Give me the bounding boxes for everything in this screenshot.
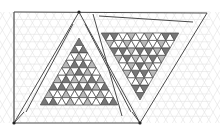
vertex-dot: [138, 121, 141, 124]
vertex-dot: [77, 10, 80, 13]
outline-edge: [99, 16, 193, 22]
diagram-canvas: [0, 0, 220, 133]
grid-line: [181, 12, 220, 123]
tessellation-figure: [0, 0, 220, 133]
grid-line: [164, 12, 220, 123]
right-inverted-triangle-pattern: [101, 33, 178, 100]
grid-line: [190, 12, 220, 123]
grid-line: [0, 12, 56, 123]
grid-line: [0, 12, 39, 123]
vertex-dot: [12, 121, 15, 124]
outline-frame: [12, 10, 207, 124]
grid-line: [164, 12, 220, 123]
grid-line: [0, 12, 56, 123]
grid-line: [181, 12, 220, 123]
grid-line: [0, 12, 4, 123]
grid-line: [190, 12, 220, 123]
grid-line: [0, 12, 4, 123]
grid-line: [0, 12, 39, 123]
